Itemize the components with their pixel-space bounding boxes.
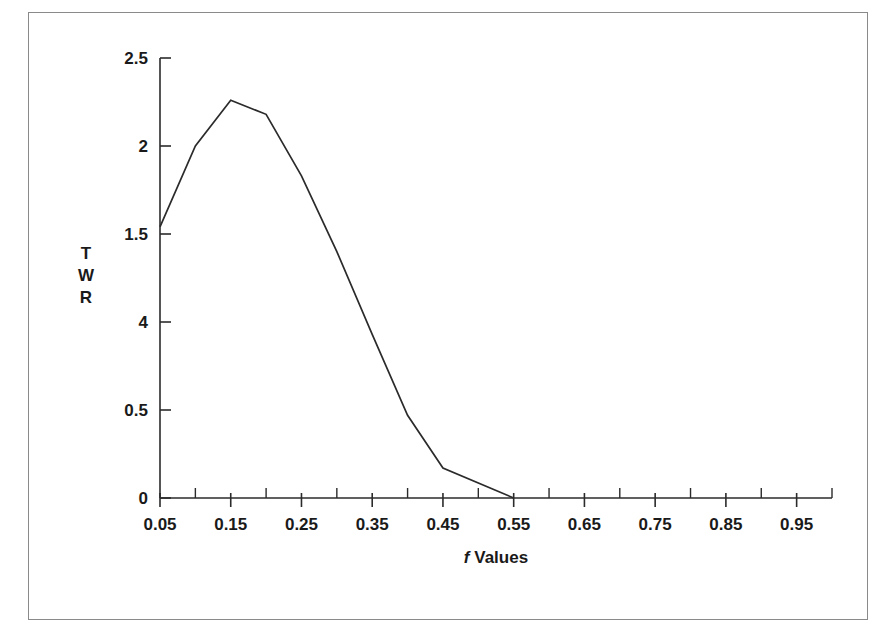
x-tick-label: 0.45 xyxy=(426,516,459,533)
y-axis-title-line-2: W xyxy=(72,265,100,287)
x-axis-title: f Values xyxy=(160,548,832,568)
y-axis-title-line-3: R xyxy=(72,287,100,309)
y-tick-label: 0 xyxy=(0,490,148,507)
x-tick-label: 0.95 xyxy=(780,516,813,533)
y-axis-title: T W R xyxy=(72,243,100,308)
x-tick-label: 0.85 xyxy=(709,516,742,533)
y-axis-title-line-1: T xyxy=(72,243,100,265)
x-tick-label: 0.15 xyxy=(214,516,247,533)
twr-curve xyxy=(160,100,514,498)
x-tick-label: 0.35 xyxy=(356,516,389,533)
axis-group xyxy=(160,58,832,498)
figure-root: 00.541.522.5 0.050.150.250.350.450.550.6… xyxy=(0,0,890,643)
y-tick-label: 0.5 xyxy=(0,402,148,419)
data-series-group xyxy=(160,100,514,498)
x-axis-title-text: Values xyxy=(470,548,529,567)
x-tick-label: 0.25 xyxy=(285,516,318,533)
y-tick-marks xyxy=(160,58,171,498)
y-tick-label: 2.5 xyxy=(0,50,148,67)
x-tick-label: 0.05 xyxy=(143,516,176,533)
x-tick-label: 0.65 xyxy=(568,516,601,533)
plot-area: 00.541.522.5 0.050.150.250.350.450.550.6… xyxy=(0,0,890,643)
x-tick-label: 0.75 xyxy=(639,516,672,533)
x-tick-label: 0.55 xyxy=(497,516,530,533)
y-tick-label: 2 xyxy=(0,138,148,155)
y-tick-label: 4 xyxy=(0,314,148,331)
y-tick-label: 1.5 xyxy=(0,226,148,243)
